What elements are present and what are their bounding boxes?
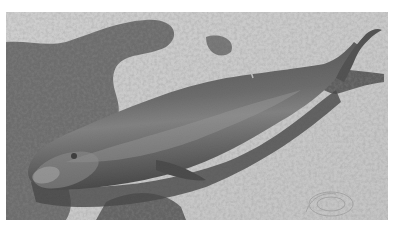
grain-overlay	[6, 12, 388, 220]
photograph: Grayscale photograph of a stranded dark …	[6, 12, 388, 220]
stranded-cetacean-scene	[6, 12, 388, 220]
